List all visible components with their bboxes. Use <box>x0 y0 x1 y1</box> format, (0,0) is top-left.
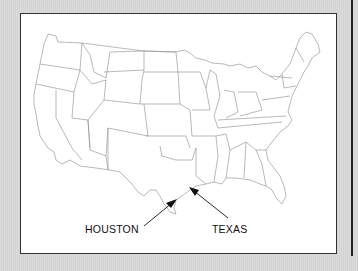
texas-label: TEXAS <box>212 223 247 235</box>
texas-arrow <box>189 187 228 218</box>
houston-label: HOUSTON <box>85 223 139 235</box>
us-state-map <box>0 0 358 271</box>
